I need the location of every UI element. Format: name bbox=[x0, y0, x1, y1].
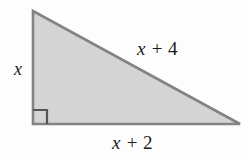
label-base-constant: 2 bbox=[143, 132, 153, 153]
label-vertical-leg: x bbox=[14, 60, 23, 78]
label-hypotenuse-constant: 4 bbox=[168, 38, 178, 59]
triangle-shape bbox=[33, 11, 240, 124]
label-hypotenuse-variable: x bbox=[137, 38, 147, 59]
label-base: x + 2 bbox=[112, 133, 153, 152]
right-triangle-figure: x x + 4 x + 2 bbox=[0, 0, 247, 161]
label-base-variable: x bbox=[112, 132, 122, 153]
label-hypotenuse-operator: + bbox=[152, 38, 163, 59]
label-vertical-leg-variable: x bbox=[14, 59, 23, 79]
label-base-operator: + bbox=[127, 132, 138, 153]
label-hypotenuse: x + 4 bbox=[137, 39, 178, 58]
